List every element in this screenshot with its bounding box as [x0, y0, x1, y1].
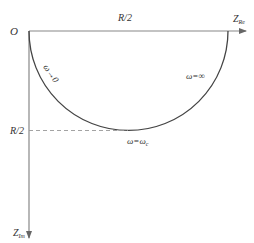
top-r-half-label: R/2 [117, 12, 132, 23]
left-r-half-label: R/2 [9, 125, 24, 136]
impedance-diagram: O R/2 R/2 ZRe ZIm ω→0 ω=∞ ω=ωc [0, 0, 254, 243]
x-axis-label: ZRe [233, 13, 245, 25]
omega-infinity-label: ω=∞ [186, 71, 205, 81]
omega-to-zero-label: ω→0 [41, 62, 61, 84]
origin-label: O [10, 25, 18, 37]
omega-critical-label: ω=ωc [127, 136, 149, 147]
y-axis-label: ZIm [13, 227, 26, 239]
